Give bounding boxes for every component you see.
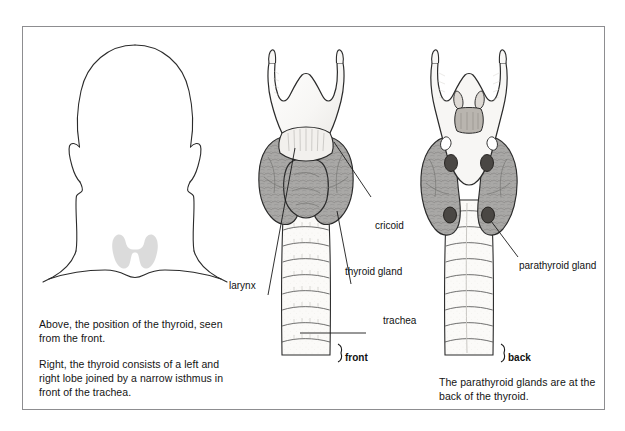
label-larynx: larynx bbox=[229, 280, 256, 291]
caption-right-bottom: The parathyroid glands are at the back o… bbox=[439, 375, 614, 403]
label-thyroid-gland: thyroid gland bbox=[345, 266, 402, 277]
caption-left-top: Above, the position of the thyroid, seen… bbox=[39, 317, 224, 345]
figure-frame: larynx cricoid thyroid gland trachea par… bbox=[22, 26, 605, 410]
label-trachea: trachea bbox=[383, 315, 416, 326]
front-bracket bbox=[338, 344, 342, 362]
head-and-neck-silhouette bbox=[43, 39, 228, 294]
label-back: back bbox=[508, 352, 531, 363]
thyroid-front-view bbox=[238, 45, 378, 375]
thyroid-back-view bbox=[401, 45, 541, 375]
illustration-page: larynx cricoid thyroid gland trachea par… bbox=[0, 0, 625, 431]
label-cricoid: cricoid bbox=[375, 220, 404, 231]
silhouette-thyroid-shape bbox=[112, 235, 158, 269]
label-front: front bbox=[345, 352, 368, 363]
larynx-front bbox=[268, 50, 344, 161]
caption-left-bottom: Right, the thyroid consists of a left an… bbox=[39, 357, 224, 400]
back-bracket bbox=[501, 344, 505, 362]
label-parathyroid-gland: parathyroid gland bbox=[519, 260, 596, 271]
